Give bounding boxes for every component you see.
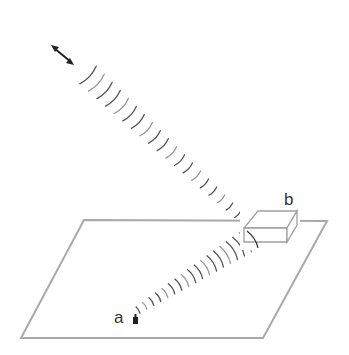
upper-signal-beam — [80, 66, 249, 225]
wave-arc — [166, 147, 177, 158]
wave-arc — [149, 131, 161, 144]
wave-arc — [149, 298, 154, 306]
diagram-canvas — [0, 0, 349, 355]
wave-arc — [226, 203, 233, 210]
double-arrow-emitter-icon — [51, 45, 74, 65]
wave-arc — [136, 307, 140, 313]
wave-arc — [168, 284, 174, 294]
wave-arc — [192, 171, 201, 181]
label-b: b — [284, 191, 293, 208]
wave-arc — [209, 187, 217, 195]
wave-arc — [143, 302, 147, 309]
wave-arc — [183, 163, 192, 173]
receiver-marker-icon — [133, 314, 138, 324]
wave-arc — [157, 139, 168, 151]
wave-arc — [201, 261, 210, 275]
wave-arc — [218, 195, 225, 203]
wave-arc — [207, 256, 217, 271]
wave-arc — [181, 274, 189, 286]
wave-arc — [80, 66, 96, 84]
wave-arc — [88, 74, 104, 91]
wave-arc — [123, 106, 137, 121]
wave-arc — [194, 265, 203, 279]
wave-arc — [140, 123, 152, 136]
wave-arc — [97, 82, 112, 98]
wave-arc — [188, 270, 196, 283]
wave-arc — [131, 115, 144, 129]
wave-arc — [235, 211, 241, 218]
wave-arc — [155, 293, 160, 301]
box-front-face — [244, 228, 287, 242]
label-a: a — [114, 309, 123, 326]
wave-arc — [106, 90, 121, 106]
wave-arc — [162, 288, 168, 297]
wave-arc — [200, 179, 208, 188]
wave-arc — [175, 155, 185, 166]
box-b — [240, 210, 300, 250]
wave-arc — [114, 98, 128, 113]
wave-arc — [175, 279, 182, 290]
